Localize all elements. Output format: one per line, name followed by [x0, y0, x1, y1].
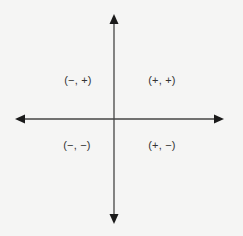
- quadrant-ii-label: (−, +): [64, 74, 92, 86]
- right-arrowhead-icon: [214, 115, 224, 124]
- coordinate-plane-diagram: (−, +) (+, +) (−, −) (+, −): [0, 0, 243, 236]
- axes-graphic: [0, 0, 243, 236]
- quadrant-iii-label: (−, −): [63, 139, 91, 151]
- x-axis: [15, 115, 224, 124]
- up-arrowhead-icon: [110, 14, 119, 24]
- quadrant-i-label: (+, +): [148, 74, 176, 86]
- left-arrowhead-icon: [15, 115, 25, 124]
- quadrant-iv-label: (+, −): [148, 139, 176, 151]
- down-arrowhead-icon: [110, 214, 119, 224]
